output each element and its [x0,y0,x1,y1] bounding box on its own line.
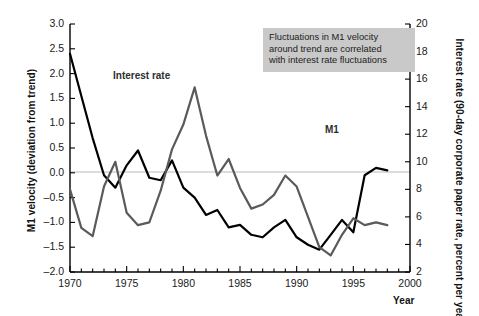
y-right-tick-label: 10 [416,155,446,167]
series-label-m1: M1 [325,124,339,135]
series-label-interest-rate: Interest rate [113,70,170,81]
x-tick-label: 1975 [103,277,151,289]
y-right-tick-label: 16 [416,72,446,84]
y-left-tick-label: 3.0 [20,17,64,29]
chart-figure: –2.0–1.5–1.0–0.50.00.51.01.52.02.53.0 24… [0,0,479,316]
annotation-line-1: Fluctuations in M1 velocity [269,32,409,44]
y-right-tick-label: 2 [416,265,446,277]
data-series-group [70,54,387,256]
y-right-tick-label: 20 [416,17,446,29]
y-right-tick-label: 12 [416,127,446,139]
y-right-tick-label: 4 [416,237,446,249]
annotation-line-2: around trend are correlated [269,44,409,56]
y-axis-right-title: Interest rate (90-day corporate paper ra… [454,39,465,259]
series-line-m1 [70,54,387,250]
y-axis-left-title: M1 velocity (deviation from trend) [26,41,37,261]
annotation-callout: Fluctuations in M1 velocity around trend… [263,28,415,72]
x-tick-label: 1980 [159,277,207,289]
x-axis-title: Year [393,295,415,306]
x-tick-label: 1990 [273,277,321,289]
y-right-tick-label: 18 [416,45,446,57]
y-right-tick-label: 8 [416,182,446,194]
x-tick-label: 1985 [216,277,264,289]
series-line-interest-rate [70,87,387,255]
x-tick-label: 2000 [386,277,434,289]
y-left-tick-label: –2.0 [20,265,64,277]
y-right-tick-label: 14 [416,100,446,112]
x-tick-label: 1970 [46,277,94,289]
y-right-tick-label: 6 [416,210,446,222]
annotation-line-3: with interest rate fluctuations [269,55,409,67]
x-tick-label: 1995 [329,277,377,289]
